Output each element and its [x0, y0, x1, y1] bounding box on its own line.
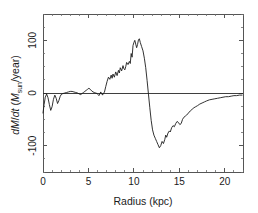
- ylabel-M: M: [9, 120, 21, 129]
- x-axis-title: Radius (kpc): [114, 195, 173, 207]
- x-tick-label: 5: [86, 176, 92, 187]
- y-axis-title: dM/dt (Msun/year): [9, 55, 23, 135]
- y-tick-label: 100: [27, 32, 38, 49]
- x-tick-label: 0: [40, 176, 46, 187]
- x-tick-label: 20: [219, 176, 231, 187]
- ylabel-per-year: /year): [9, 55, 21, 82]
- y-tick-label: 0: [27, 90, 38, 96]
- y-tick-label: -100: [27, 135, 38, 155]
- chart-plot-area: 05101520 -1000100 Radius (kpc) dM/dt (Ms…: [0, 0, 258, 213]
- svg-text:dM/dt (Msun/year): dM/dt (Msun/year): [9, 55, 23, 135]
- chart-figure: 05101520 -1000100 Radius (kpc) dM/dt (Ms…: [0, 0, 258, 213]
- x-tick-label: 15: [174, 176, 186, 187]
- ylabel-Msun: M: [9, 93, 21, 102]
- y-axis-tick-labels: -1000100: [27, 32, 38, 156]
- x-tick-label: 10: [128, 176, 140, 187]
- ylabel-sun-subscript: sun: [16, 82, 23, 93]
- x-axis-tick-labels: 05101520: [40, 176, 231, 187]
